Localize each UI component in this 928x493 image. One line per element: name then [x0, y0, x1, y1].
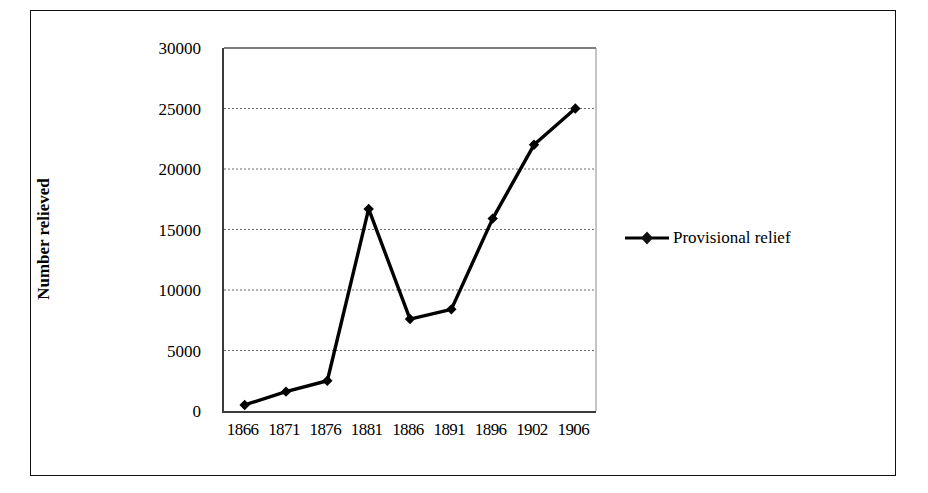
- x-tick-label: 1896: [470, 417, 511, 447]
- data-point-marker: [322, 376, 332, 386]
- x-tick-label: 1902: [511, 417, 552, 447]
- x-tick-label: 1881: [346, 417, 387, 447]
- data-series-provisional-relief: [239, 103, 580, 410]
- legend-label-provisional-relief: Provisional relief: [673, 229, 791, 247]
- x-tick-label: 1886: [387, 417, 428, 447]
- x-tick-label: 1871: [263, 417, 304, 447]
- y-tick-label: 15000: [135, 222, 201, 239]
- series-line: [245, 109, 576, 405]
- data-point-marker: [446, 304, 456, 314]
- x-tick-label: 1876: [305, 417, 346, 447]
- y-tick-label: 10000: [135, 282, 201, 299]
- y-tick-label: 25000: [135, 101, 201, 118]
- data-point-marker: [281, 386, 291, 396]
- y-tick-label: 30000: [135, 40, 201, 57]
- x-tick-label: 1866: [222, 417, 263, 447]
- y-tick-label: 20000: [135, 161, 201, 178]
- data-point-marker: [363, 204, 373, 214]
- plot-area: [222, 48, 596, 413]
- legend-line-diamond-icon: [624, 230, 670, 246]
- y-tick-label: 0: [135, 403, 201, 420]
- legend-marker-icon: [624, 230, 670, 246]
- data-point-marker: [239, 400, 249, 410]
- y-axis-tick-labels: 050001000015000200002500030000: [135, 11, 201, 477]
- y-tick-label: 5000: [135, 343, 201, 360]
- chart-figure: Number relieved 050001000015000200002500…: [30, 10, 896, 476]
- line-chart-svg: [224, 48, 596, 411]
- x-tick-label: 1906: [553, 417, 594, 447]
- chart-legend: Provisional relief: [624, 229, 791, 247]
- x-axis-tick-labels: 186618711876188118861891189619021906: [222, 417, 594, 447]
- data-point-marker: [405, 314, 415, 324]
- gridlines: [224, 48, 596, 411]
- x-tick-label: 1891: [429, 417, 470, 447]
- y-axis-title: Number relieved: [31, 109, 57, 369]
